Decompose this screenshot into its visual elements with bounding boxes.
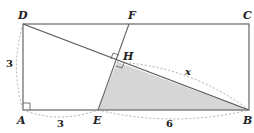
label-C: C (243, 9, 252, 22)
measure-HB: x (184, 66, 192, 77)
shaded-triangle-EHB (98, 62, 249, 110)
geometry-diagram: D F C H A E B 3 3 6 x (0, 0, 254, 133)
dashed-arc-AD (17, 24, 24, 110)
label-F: F (127, 9, 137, 22)
right-angle-marker-A (23, 103, 30, 110)
measure-EB: 6 (166, 118, 173, 129)
diagram-canvas: D F C H A E B 3 3 6 x (0, 0, 254, 133)
label-E: E (92, 114, 102, 127)
label-A: A (16, 114, 26, 127)
label-B: B (242, 114, 252, 127)
label-D: D (17, 9, 28, 22)
measure-AE: 3 (57, 118, 64, 129)
label-H: H (122, 50, 134, 63)
dashed-arc-AE (23, 110, 98, 117)
dashed-arc-EB (98, 110, 249, 119)
measure-AD: 3 (6, 58, 13, 69)
